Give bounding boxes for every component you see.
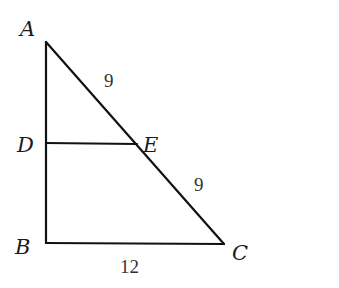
vertex-label-d: D xyxy=(16,133,34,157)
measure-ec: 9 xyxy=(194,174,204,195)
measure-ae: 9 xyxy=(104,70,114,91)
segment-de xyxy=(46,143,137,144)
measure-bc: 12 xyxy=(120,256,139,277)
segment-bc xyxy=(46,243,224,244)
vertex-label-e: E xyxy=(142,133,158,157)
vertex-label-a: A xyxy=(18,17,35,41)
vertex-label-b: B xyxy=(14,235,30,259)
vertex-label-c: C xyxy=(232,241,248,265)
triangle-diagram: A D E B C 9 9 12 xyxy=(0,0,339,288)
